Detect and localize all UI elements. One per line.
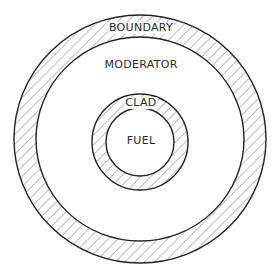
clad-label: CLAD	[124, 97, 157, 109]
reactor-cell-diagram: BOUNDARY MODERATOR CLAD FUEL	[0, 0, 277, 270]
moderator-label: MODERATOR	[104, 58, 177, 71]
boundary-label: BOUNDARY	[108, 22, 174, 34]
fuel-label: FUEL	[127, 134, 156, 147]
